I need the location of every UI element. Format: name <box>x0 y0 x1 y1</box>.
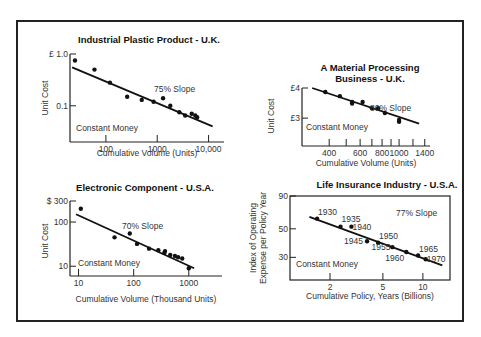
data-point <box>323 90 327 94</box>
slope-annotation: 75% Slope <box>154 84 195 94</box>
point-label: 1945 <box>344 236 363 246</box>
data-point <box>79 207 83 211</box>
plot-area: 9050302510Cumulative Policy, Years (Bill… <box>246 178 466 308</box>
y-axis-label: Unit Cost <box>40 80 50 116</box>
x-tick-label: 600 <box>353 148 367 158</box>
y-tick-label: £3 <box>291 113 301 123</box>
data-point <box>350 101 354 105</box>
x-axis-label: Cumulative Volume (Thousand Units) <box>76 294 217 304</box>
chart-material-processing: A Material Processing Business - U.K. £4… <box>260 56 460 174</box>
data-point <box>108 80 112 84</box>
constant-money-note: Constant Money <box>296 259 359 269</box>
data-point <box>365 239 369 243</box>
data-point <box>112 235 116 239</box>
y-tick-label: £4 <box>291 83 301 93</box>
data-point <box>177 110 181 114</box>
data-point <box>416 253 420 257</box>
data-point <box>315 216 319 220</box>
data-point <box>404 250 408 254</box>
data-point <box>161 96 165 100</box>
axes: £ 1.00.1100100010,000Cumulative Volume (… <box>40 49 224 158</box>
data-point <box>183 113 187 117</box>
slope-annotation: 77% Slope <box>396 208 437 218</box>
y-tick-label: 50 <box>279 224 289 234</box>
y-tick-label: £ 1.0 <box>49 49 68 59</box>
slope-annotation: 70% Slope <box>122 221 163 231</box>
x-tick-label: 10,000 <box>196 144 222 154</box>
data-point <box>397 118 401 122</box>
axes: 9050302510Cumulative Policy, Years (Bill… <box>248 191 450 301</box>
y-tick-label: 30 <box>279 252 289 262</box>
data-point <box>151 99 155 103</box>
x-tick-label: 800 <box>375 148 389 158</box>
plot-area: £4£340060080010001400Cumulative Volume (… <box>260 56 460 174</box>
constant-money-note: Constant Money <box>78 258 141 268</box>
plot-area: £ 1.00.1100100010,000Cumulative Volume (… <box>34 34 234 164</box>
axes: $ 30010010101001000Cumulative Volume (Th… <box>40 196 222 304</box>
point-label: 1960 <box>385 253 404 263</box>
y-axis-label: Index of Operating <box>248 203 258 273</box>
data-point <box>180 256 184 260</box>
y-tick-label: $ 300 <box>47 196 69 206</box>
data-point <box>168 253 172 257</box>
data-point <box>187 266 191 270</box>
data-point <box>176 255 180 259</box>
x-axis-label: Cumulative Policy, Years (Billions) <box>306 291 434 301</box>
y-axis-label: Expense per Policy Year <box>258 192 268 284</box>
slope-annotation: 80% Slope <box>370 103 411 113</box>
x-tick-label: 10 <box>74 278 84 288</box>
point-label: 1955 <box>372 242 391 252</box>
data-point <box>147 246 151 250</box>
y-tick-label: 90 <box>279 191 289 201</box>
chart-electronic-component: Electronic Component - U.S.A. $ 30010010… <box>34 181 234 311</box>
data-point <box>168 104 172 108</box>
data-point <box>125 94 129 98</box>
data-point <box>390 245 394 249</box>
data-point <box>128 231 132 235</box>
chart-life-insurance: Life Insurance Industry - U.S.A. 9050302… <box>246 178 466 308</box>
x-tick-label: 1000 <box>390 148 409 158</box>
y-axis-label: Unit Cost <box>40 223 50 259</box>
data-point <box>338 94 342 98</box>
data-point <box>163 249 167 253</box>
data-point <box>140 98 144 102</box>
point-label: 1940 <box>352 222 371 232</box>
x-axis-label: Cumulative Volume (Units) <box>97 148 198 158</box>
point-label: 1965 <box>419 244 438 254</box>
axes: £4£340060080010001400Cumulative Volume (… <box>266 83 434 168</box>
data-point <box>135 242 139 246</box>
data-point <box>338 224 342 228</box>
x-axis-label: Cumulative Volume (Units) <box>316 158 417 168</box>
y-tick-label: 0.1 <box>56 101 68 111</box>
y-tick-label: 100 <box>54 217 68 227</box>
data-point <box>73 58 77 62</box>
constant-money-note: Constant Money <box>76 123 139 133</box>
chart-industrial-plastic: Industrial Plastic Product - U.K. £ 1.00… <box>34 34 234 164</box>
x-tick-label: 1000 <box>179 278 198 288</box>
data-point <box>156 248 160 252</box>
plot-area: $ 30010010101001000Cumulative Volume (Th… <box>34 181 234 311</box>
point-label: 1950 <box>379 231 398 241</box>
data-point <box>360 100 364 104</box>
data-point <box>195 115 199 119</box>
constant-money-note: Constant Money <box>306 122 369 132</box>
data-point <box>92 67 96 71</box>
y-axis-label: Unit Cost <box>266 98 276 134</box>
point-label: 1970 <box>427 254 446 264</box>
x-tick-label: 100 <box>127 278 141 288</box>
y-tick-label: 10 <box>59 261 69 271</box>
trend-line <box>72 67 212 126</box>
x-tick-label: 400 <box>322 148 336 158</box>
point-label: 1930 <box>318 207 337 217</box>
x-tick-label: 1400 <box>415 148 434 158</box>
